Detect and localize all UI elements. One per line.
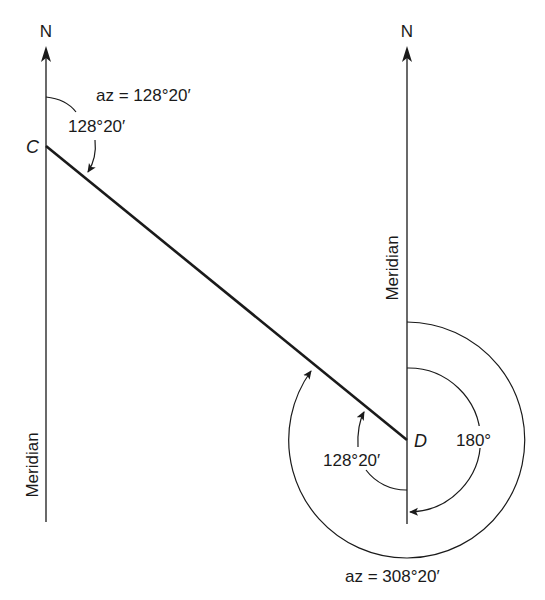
point-c-label: C [26,137,40,157]
azimuth-diagram: N Meridian N Meridian C D az = 128°20′ 1… [0,0,545,600]
left-north-label: N [40,22,52,41]
forward-angle-label: 128°20′ [68,117,125,136]
right-meridian-label: Meridian [383,235,402,300]
point-d-label: D [414,431,427,451]
back-angle-arc [366,470,407,490]
forward-az-label: az = 128°20′ [96,86,191,105]
back-angle-label: 128°20′ [323,451,380,470]
line-cd [46,146,407,440]
forward-angle-arrow [88,140,95,172]
forward-azimuth-arc [46,97,76,112]
back-angle-arrow [358,412,364,447]
back-az-label: az = 308°20′ [345,567,440,586]
left-meridian-label: Meridian [23,432,42,497]
half-turn-label: 180° [456,431,491,450]
left-meridian [41,46,51,522]
right-meridian [402,46,412,524]
right-north-label: N [401,22,413,41]
